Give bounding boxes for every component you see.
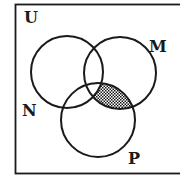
set-p-label: P (128, 149, 140, 168)
universe-label: U (24, 8, 38, 27)
set-n-label: N (22, 101, 37, 120)
venn-diagram: U M N P (0, 0, 180, 176)
set-m-label: M (149, 37, 167, 56)
